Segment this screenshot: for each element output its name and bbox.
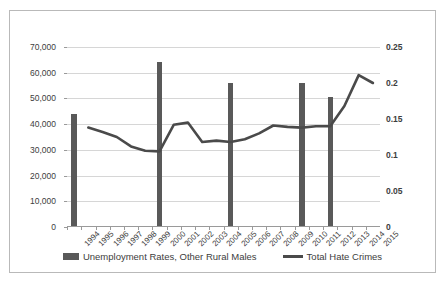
y-axis-left-tickmark [64, 124, 67, 125]
legend-label-total-hate-crimes: Total Hate Crimes [307, 251, 383, 262]
y-axis-right-tick-label: 0.05 [386, 187, 436, 196]
x-axis-tickmark [195, 227, 196, 230]
y-axis-right-tick-label: 0.25 [386, 43, 436, 52]
line-path [88, 75, 373, 151]
x-axis-tickmark [309, 227, 310, 230]
y-axis-right-tick-label: 0.1 [386, 151, 436, 160]
x-axis-tickmark [152, 227, 153, 230]
y-axis-left-tick-label: 40,000 [0, 120, 56, 129]
y-axis-left-tick-label: 0 [0, 223, 56, 232]
chart-container: 010,00020,00030,00040,00050,00060,00070,… [9, 10, 436, 273]
x-axis-tickmark [366, 227, 367, 230]
x-axis-tickmark [352, 227, 353, 230]
x-axis-tickmark [252, 227, 253, 230]
x-axis-tick-label-2015: 2015 [382, 230, 400, 248]
chart-legend: Unemployment Rates, Other Rural Males To… [10, 251, 435, 262]
plot-area [67, 47, 380, 227]
y-axis-left-tick-label: 30,000 [0, 146, 56, 155]
x-axis-tickmark [181, 227, 182, 230]
line-series-total-hate-crimes [67, 47, 380, 227]
x-axis-tickmark [167, 227, 168, 230]
legend-item-unemployment-rates: Unemployment Rates, Other Rural Males [63, 251, 257, 262]
x-axis-tickmark [138, 227, 139, 230]
y-axis-left-tick-label: 20,000 [0, 172, 56, 181]
x-axis-tickmark [67, 227, 68, 230]
x-axis-tickmark [266, 227, 267, 230]
y-axis-left-tick-label: 50,000 [0, 94, 56, 103]
x-axis-tickmark [323, 227, 324, 230]
x-axis-tickmark [280, 227, 281, 230]
x-axis-tickmark [209, 227, 210, 230]
x-axis-tickmark [96, 227, 97, 230]
legend-item-total-hate-crimes: Total Hate Crimes [283, 251, 383, 262]
x-axis-tickmark [81, 227, 82, 230]
x-axis-tickmark [337, 227, 338, 230]
legend-label-unemployment-rates: Unemployment Rates, Other Rural Males [83, 251, 257, 262]
x-axis-tickmark [238, 227, 239, 230]
x-axis-tickmark [124, 227, 125, 230]
y-axis-left-tick-label: 60,000 [0, 69, 56, 78]
bar-swatch-icon [63, 253, 79, 260]
y-axis-left-tickmark [64, 176, 67, 177]
y-axis-left-tickmark [64, 73, 67, 74]
y-axis-left-tick-label: 10,000 [0, 197, 56, 206]
x-axis-tickmark [224, 227, 225, 230]
y-axis-left-tickmark [64, 201, 67, 202]
y-axis-right-tick-label: 0.15 [386, 115, 436, 124]
y-axis-left-tickmark [64, 98, 67, 99]
y-axis-left-tickmark [64, 150, 67, 151]
line-swatch-icon [283, 255, 303, 258]
y-axis-left-tick-label: 70,000 [0, 43, 56, 52]
y-axis-left-tickmark [64, 47, 67, 48]
x-axis-tickmark [295, 227, 296, 230]
x-axis-tickmark [110, 227, 111, 230]
y-axis-right-tick-label: 0.2 [386, 79, 436, 88]
